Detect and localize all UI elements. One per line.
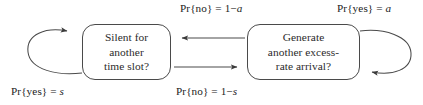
edge-label-top-center-prefix: Pr{no} = 1− [180,2,237,14]
edge-label-top-center-symbol: a [237,2,243,14]
state-silent-line-3: time slot? [104,59,149,74]
edge-label-self-loop-generate: Pr{yes} = a [337,2,391,14]
edge-label-bottom-left-prefix: Pr{yes} = [11,85,60,97]
edge-label-generate-to-silent: Pr{no} = 1−a [180,2,242,14]
edge-label-bottom-left-symbol: s [60,85,64,97]
state-silent-line-1: Silent for [105,30,148,45]
edge-label-self-loop-silent: Pr{yes} = s [11,85,64,97]
edge-label-silent-to-generate: Pr{no} = 1−s [176,85,237,97]
self-loop-silent-path [28,30,82,74]
state-generate-line-3: rate arrival? [276,59,331,74]
state-generate-line-2: another excess- [268,45,339,60]
state-generate-line-1: Generate [283,30,325,45]
self-loop-generate-path [360,30,411,73]
state-node-silent: Silent for another time slot? [82,24,171,80]
diagram-canvas: Silent for another time slot? Generate a… [0,0,423,105]
state-silent-line-2: another [109,45,144,60]
edge-label-bottom-center-symbol: s [233,85,237,97]
edge-label-top-right-prefix: Pr{yes} = [337,2,386,14]
state-node-generate: Generate another excess- rate arrival? [247,24,360,80]
edge-label-top-right-symbol: a [386,2,392,14]
edge-label-bottom-center-prefix: Pr{no} = 1− [176,85,233,97]
